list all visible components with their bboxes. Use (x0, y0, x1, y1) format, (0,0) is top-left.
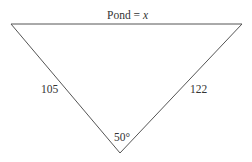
bottom-angle: 50° (114, 132, 130, 144)
right-side-length: 122 (190, 84, 207, 96)
pond-label: Pond = (107, 9, 143, 21)
top-side-label: Pond = x (107, 10, 148, 22)
left-side-length: 105 (41, 84, 58, 96)
unknown-variable: x (143, 9, 148, 21)
